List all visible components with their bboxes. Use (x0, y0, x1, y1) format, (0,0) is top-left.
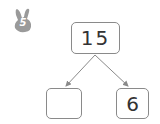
part-box-left[interactable] (46, 88, 82, 119)
left-arrow (66, 55, 95, 86)
whole-box: 15 (71, 22, 120, 54)
part-box-right: 6 (116, 88, 149, 119)
right-arrow (95, 55, 128, 86)
